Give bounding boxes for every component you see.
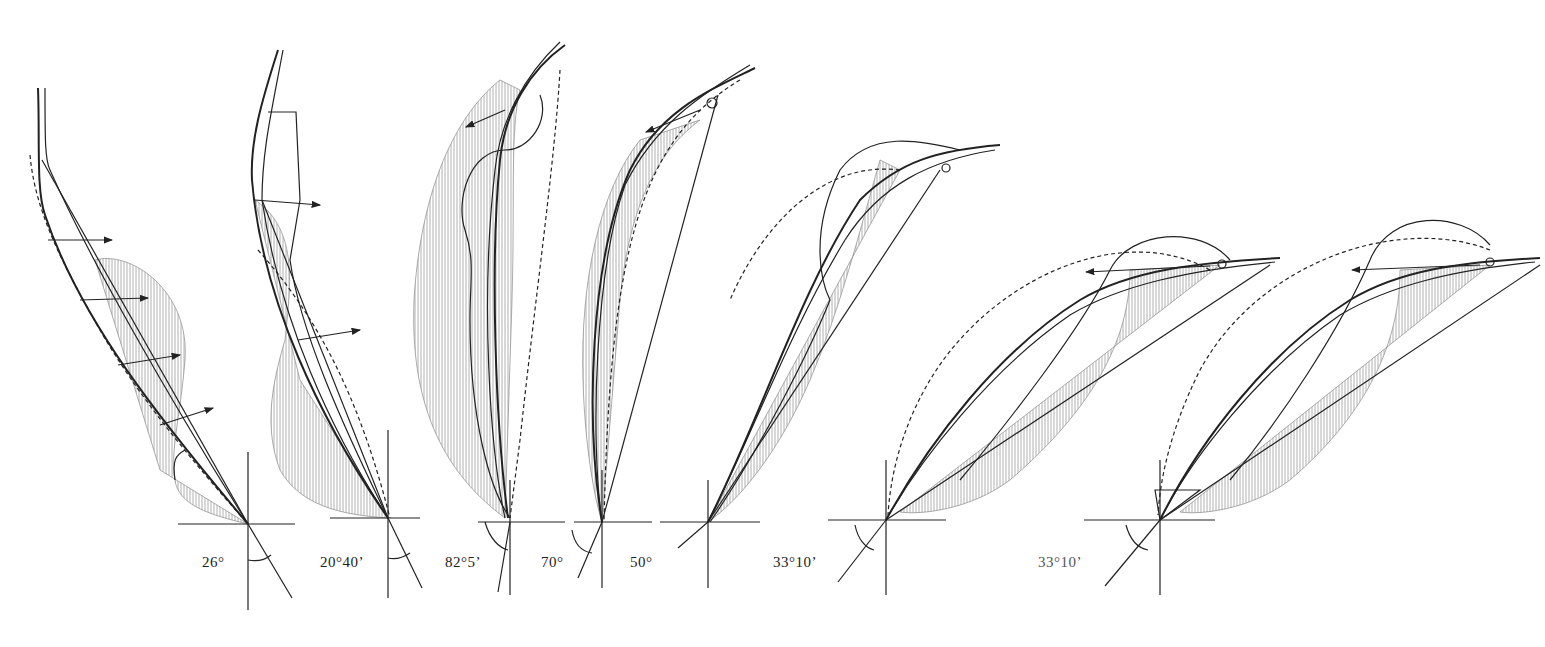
angle-label-panel-4: 70° [541,554,564,571]
panel-4 [572,65,755,588]
angle-label-panel-1: 26° [202,554,225,571]
angle-label-panel-3: 82°5’ [445,554,481,571]
diagram-canvas [0,0,1545,647]
angle-label-panel-5: 50° [630,554,653,571]
angle-label-panel-6: 33°10’ [773,554,817,571]
panel-1 [30,88,295,610]
panel-5 [660,141,1000,588]
panel-6 [828,237,1280,595]
panel-3 [414,42,565,595]
angle-label-panel-7: 33°10’ [1038,554,1082,571]
panel-2 [252,50,422,598]
angle-label-panel-2: 20°40’ [320,554,364,571]
